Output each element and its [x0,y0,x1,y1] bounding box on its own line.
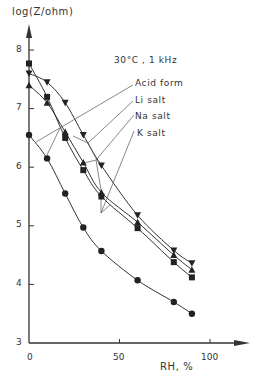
circle-marker-icon [98,248,104,254]
label-acid-form: Acid form [135,78,183,88]
y-tick-4: 4 [16,278,22,288]
square-marker-icon [171,259,177,265]
circle-marker-icon [44,155,50,161]
square-marker-icon [44,94,50,100]
triangle-down-marker-icon [80,132,87,139]
triangle-down-marker-icon [62,100,69,107]
square-marker-icon [26,60,32,66]
x-tick-0: 0 [27,352,33,362]
triangle-down-marker-icon [98,162,105,169]
circle-marker-icon [26,132,32,138]
circle-marker-icon [62,190,68,196]
y-tick-6: 6 [16,161,22,171]
leader-na-salt [96,115,134,160]
circle-marker-icon [189,311,195,317]
square-marker-icon [80,167,86,173]
circle-marker-icon [134,277,140,283]
circle-marker-icon [80,224,86,230]
label-li-salt: Li salt [135,95,166,105]
square-marker-icon [135,225,141,231]
triangle-down-marker-icon [188,260,195,267]
circle-marker-icon [171,299,177,305]
x-tick-100: 100 [201,352,218,362]
y-tick-5: 5 [16,219,22,229]
x-axis-label: RH, % [160,361,193,372]
curve-acid-form [29,135,192,314]
x-tick-50: 50 [113,352,124,362]
condition-annotation: 30°C , 1 kHz [114,55,177,65]
y-axis-arrow-icon [26,24,32,38]
y-tick-8: 8 [16,44,22,54]
y-tick-3: 3 [16,337,22,347]
y-axis-label: log(Z/ohm) [12,6,73,17]
square-marker-icon [189,274,195,280]
axis-ticks [29,50,210,343]
y-tick-7: 7 [16,102,22,112]
triangle-down-marker-icon [26,70,33,77]
triangle-up-marker-icon [26,82,33,89]
label-k-salt: K salt [137,128,166,138]
square-marker-icon [98,194,104,200]
label-na-salt: Na salt [135,111,171,121]
curve-li-salt [29,73,192,263]
square-marker-icon [62,135,68,141]
x-axis-arrow-icon [234,340,250,346]
